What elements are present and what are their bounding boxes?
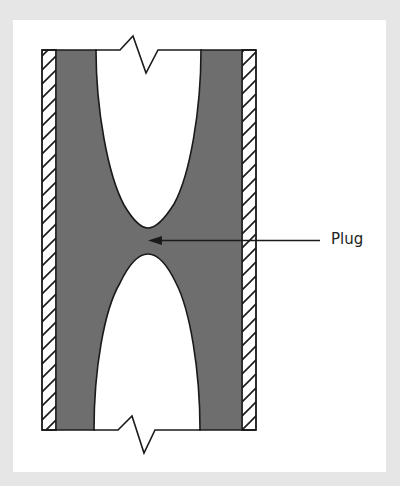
plug-label: Plug: [331, 230, 363, 248]
left-wall: [42, 50, 56, 430]
